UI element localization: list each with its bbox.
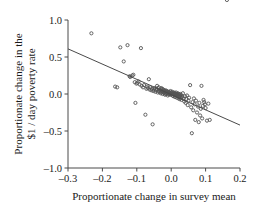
data-point xyxy=(195,111,198,114)
axis-labels-layer: –1.0–0.50.00.51.0–0.3–0.2–0.10.00.10.2Pr… xyxy=(12,15,247,202)
data-point xyxy=(207,102,210,105)
data-point xyxy=(200,84,203,87)
x-tick-label: 0.2 xyxy=(233,173,246,184)
y-axis-title-line1: Proportionate change in the xyxy=(12,33,24,154)
x-tick-label: –0.3 xyxy=(58,173,77,184)
x-axis-title: Proportionate change in survey mean xyxy=(72,190,236,202)
x-tick-label: 0.1 xyxy=(199,173,212,184)
y-tick-label: 1.0 xyxy=(49,15,62,26)
y-tick-label: –0.5 xyxy=(43,126,62,137)
data-point xyxy=(197,121,200,124)
data-point xyxy=(147,78,150,81)
data-point xyxy=(126,44,129,47)
data-point xyxy=(119,46,122,49)
data-point xyxy=(90,32,93,35)
scatter-plot-figure: –1.0–0.50.00.51.0–0.3–0.2–0.10.00.10.2Pr… xyxy=(0,0,260,210)
data-point xyxy=(139,47,142,50)
x-tick-label: 0.0 xyxy=(165,173,178,184)
x-tick-label: –0.1 xyxy=(127,173,146,184)
chart-canvas: –1.0–0.50.00.51.0–0.3–0.2–0.10.00.10.2Pr… xyxy=(0,0,260,210)
regression-line-layer xyxy=(68,49,240,125)
data-point xyxy=(201,117,204,120)
data-point xyxy=(194,99,197,102)
data-point xyxy=(151,123,154,126)
y-tick-label: –1.0 xyxy=(43,163,62,174)
data-point xyxy=(134,101,137,104)
y-tick-label: 0.5 xyxy=(49,52,62,63)
data-point xyxy=(199,114,202,117)
data-point xyxy=(190,106,193,109)
data-point xyxy=(144,113,147,116)
data-point xyxy=(194,118,197,121)
data-point xyxy=(225,0,228,2)
y-tick-label: 0.0 xyxy=(49,89,62,100)
axes xyxy=(65,20,241,172)
data-point xyxy=(186,104,189,107)
y-axis-title-line2: $1 / day poverty rate xyxy=(25,48,37,139)
data-point xyxy=(192,109,195,112)
regression-line xyxy=(68,49,240,125)
data-point xyxy=(190,132,193,135)
data-point xyxy=(189,84,192,87)
data-point xyxy=(198,101,201,104)
x-tick-label: –0.2 xyxy=(92,173,111,184)
data-point xyxy=(122,60,125,63)
